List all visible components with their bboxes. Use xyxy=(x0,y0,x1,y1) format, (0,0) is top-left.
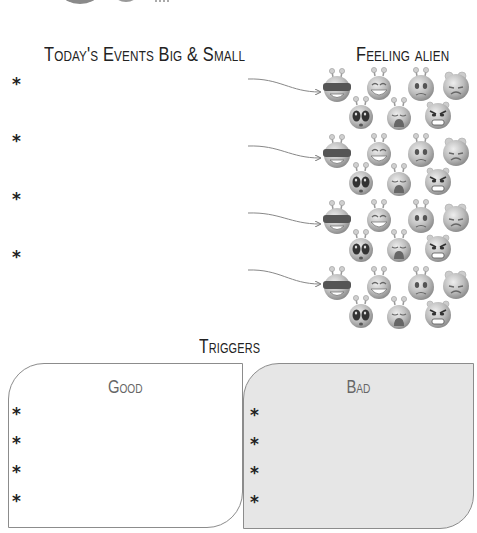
alien-laughing-icon xyxy=(367,199,391,232)
alien-shocked-icon xyxy=(349,229,373,262)
bad-bullet-1: * xyxy=(250,407,259,424)
alien-sad-icon xyxy=(443,204,469,232)
alien-crying-icon xyxy=(387,163,411,196)
alien-crying-icon xyxy=(387,296,411,329)
alien-worried-icon xyxy=(408,67,434,101)
good-triggers-box: Good * * * * xyxy=(8,363,243,528)
good-bullet-4: * xyxy=(12,493,21,510)
alien-group-1 xyxy=(323,67,469,130)
alien-crying-icon xyxy=(387,229,411,262)
bad-triggers-box: Bad * * * * xyxy=(243,363,474,529)
alien-laughing-icon xyxy=(367,133,391,166)
good-title: Good xyxy=(9,376,242,398)
alien-worried-icon xyxy=(408,133,434,167)
alien-angry-icon xyxy=(425,168,451,195)
alien-cool-icon xyxy=(323,266,351,300)
alien-crying-icon xyxy=(387,97,411,130)
alien-sad-icon xyxy=(443,138,469,166)
alien-laughing-icon xyxy=(367,67,391,100)
good-bullet-3: * xyxy=(12,464,21,481)
alien-shocked-icon xyxy=(349,96,373,129)
alien-shocked-icon xyxy=(349,162,373,195)
bad-bullet-2: * xyxy=(250,436,259,453)
bad-title: Bad xyxy=(244,376,473,398)
good-bullet-2: * xyxy=(12,435,21,452)
alien-faces-layer xyxy=(0,0,477,345)
alien-cool-icon xyxy=(323,68,351,102)
alien-group-2 xyxy=(323,133,469,196)
bad-bullet-4: * xyxy=(250,494,259,511)
alien-sad-icon xyxy=(443,271,469,299)
triggers-heading: Triggers xyxy=(199,335,260,358)
alien-laughing-icon xyxy=(367,266,391,299)
good-bullet-1: * xyxy=(12,406,21,423)
alien-group-4 xyxy=(323,266,469,329)
alien-angry-icon xyxy=(425,102,451,129)
alien-angry-icon xyxy=(425,301,451,328)
alien-group-3 xyxy=(323,199,469,262)
bad-bullet-3: * xyxy=(250,465,259,482)
alien-angry-icon xyxy=(425,235,451,262)
alien-sad-icon xyxy=(443,72,469,100)
alien-shocked-icon xyxy=(349,295,373,328)
alien-cool-icon xyxy=(323,134,351,168)
alien-worried-icon xyxy=(408,199,434,233)
alien-cool-icon xyxy=(323,200,351,234)
alien-worried-icon xyxy=(408,266,434,300)
